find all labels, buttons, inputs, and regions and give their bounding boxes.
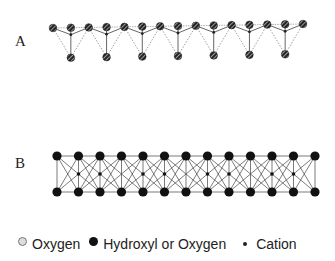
legend-label: Hydroxyl or Oxygen [103,236,226,252]
silicate-structure-diagram [0,0,335,261]
legend: Oxygen Hydroxyl or Oxygen Cation [18,236,306,252]
legend-label: Cation [256,236,296,252]
hydroxyl-symbol-icon [89,237,98,246]
oxygen-symbol-icon [18,237,27,246]
cation-symbol-icon [243,242,247,246]
tetrahedral-sheet [49,20,307,61]
octahedral-sheet [52,151,319,196]
legend-item-oxygen: Oxygen [18,236,80,252]
legend-item-cation: Cation [235,236,296,252]
legend-label: Oxygen [32,236,80,252]
legend-item-hydroxyl: Hydroxyl or Oxygen [89,236,226,252]
